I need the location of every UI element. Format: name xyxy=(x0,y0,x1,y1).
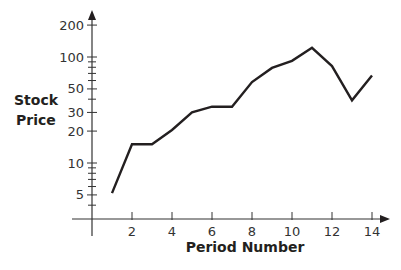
y-axis-arrow-icon xyxy=(88,10,96,20)
x-tick-label: 12 xyxy=(324,224,341,239)
y-tick-label: 10 xyxy=(67,156,84,171)
x-tick-label: 4 xyxy=(168,224,176,239)
y-axis-label-line2: Price xyxy=(12,110,60,130)
y-tick-label: 30 xyxy=(67,105,84,120)
x-axis-arrow-icon xyxy=(380,215,390,223)
y-tick-label: 20 xyxy=(67,124,84,139)
x-axis-ticks: 2468101214 xyxy=(128,212,380,239)
x-tick-label: 8 xyxy=(248,224,256,239)
y-tick-label: 5 xyxy=(76,187,84,202)
y-tick-label: 100 xyxy=(59,50,84,65)
y-axis-label-line1: Stock xyxy=(12,90,60,110)
x-tick-label: 6 xyxy=(208,224,216,239)
axes xyxy=(72,10,390,236)
y-axis-ticks: 510203050100200 xyxy=(59,18,97,206)
stock-price-line xyxy=(112,48,372,193)
y-tick-label: 50 xyxy=(67,81,84,96)
x-axis-label: Period Number xyxy=(150,239,340,255)
chart-canvas: 510203050100200 2468101214 xyxy=(0,0,401,270)
x-tick-label: 2 xyxy=(128,224,136,239)
x-tick-label: 14 xyxy=(364,224,381,239)
y-axis-label: Stock Price xyxy=(12,90,60,130)
y-tick-label: 200 xyxy=(59,18,84,33)
x-tick-label: 10 xyxy=(284,224,301,239)
